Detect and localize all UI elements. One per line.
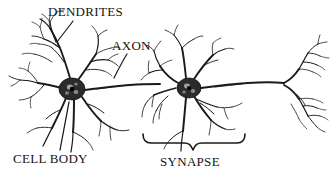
neuron-2-dendrites-left — [141, 41, 180, 123]
neuron-2-dendrites-upper — [165, 25, 234, 79]
synapse-brace — [143, 134, 245, 150]
neuron-1 — [9, 10, 160, 152]
neuron-diagram: DENDRITES AXON CELL BODY SYNAPSE — [0, 0, 335, 177]
neuron-1-cell-body — [59, 78, 85, 100]
neuron-1-dendrites-right — [78, 26, 120, 80]
neuron-2 — [141, 25, 284, 151]
dendrites-leader-line — [57, 21, 73, 42]
neuron-1-dendrites-lower — [27, 97, 129, 152]
terminal-arbor — [284, 35, 329, 132]
label-dendrites: DENDRITES — [48, 5, 123, 18]
label-synapse: SYNAPSE — [160, 155, 220, 168]
label-cell-body: CELL BODY — [13, 152, 88, 165]
label-axon: AXON — [112, 39, 151, 52]
neuron-1-dendrites-upper — [30, 10, 70, 78]
neuron-2-axon — [201, 82, 284, 88]
axon-leader-line — [114, 54, 127, 78]
neuron-2-cell-body — [177, 78, 201, 98]
neuron-1-dendrites-left — [9, 53, 62, 108]
